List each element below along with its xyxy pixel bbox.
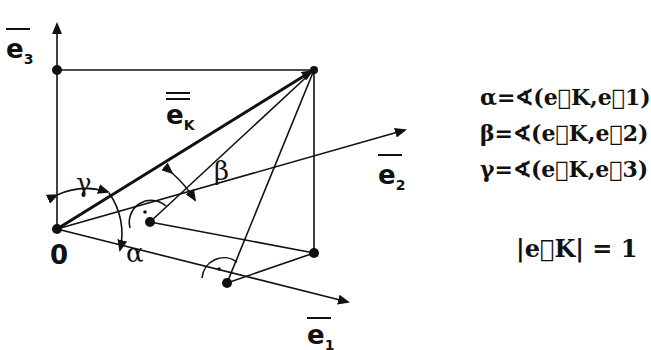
origin-point [52, 224, 62, 234]
alpha-formula: α=∢(e⃗K,e⃗1) [480, 84, 651, 110]
e1-foot-point [222, 278, 232, 288]
e1-axis [57, 229, 348, 302]
alpha-arc [109, 193, 122, 250]
corner-point [309, 248, 319, 258]
right-angle-dot-e1 [217, 267, 221, 271]
beta-formula: β=∢(e⃗K,e⃗2) [480, 120, 648, 146]
alpha-label: α [126, 238, 144, 268]
ek-label: eK [166, 100, 195, 133]
e2-axis [57, 130, 405, 229]
ek-vector-bar-1 [166, 92, 190, 94]
norm-formula: |e⃗K| = 1 [516, 234, 638, 263]
ek-vector [57, 71, 312, 229]
e1-label: e1 [307, 320, 334, 350]
e2-label: e2 [378, 160, 405, 193]
origin-label: 0 [50, 240, 68, 270]
apex-point [310, 66, 318, 74]
gamma-formula: γ=∢(e⃗K,e⃗3) [480, 156, 648, 182]
e1-foot-to-corner [227, 253, 314, 283]
gamma-label: γ [76, 168, 92, 198]
e2-foot-point [145, 217, 155, 227]
e2-vector-bar [378, 154, 402, 156]
e2-foot-to-corner [150, 222, 314, 253]
e3-label: e3 [6, 34, 33, 67]
e3-vector-bar [6, 28, 30, 30]
e1-vector-bar [307, 317, 331, 319]
right-angle-dot-e2 [143, 210, 147, 214]
e3-proj-point [52, 65, 62, 75]
beta-label: β [214, 156, 229, 186]
